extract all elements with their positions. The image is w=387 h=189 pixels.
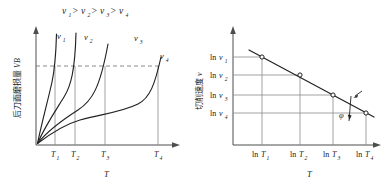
right-y-axis-arrow <box>230 26 236 34</box>
right-ytick-lnv1-sub: 1 <box>225 58 228 64</box>
left-xtick-t1-sub: 1 <box>57 155 60 161</box>
right-x-axis-label: T <box>307 169 313 179</box>
inequality-op1: > <box>72 6 78 16</box>
right-xtick-lnt1-prefix: ln <box>252 150 258 159</box>
left-xtick-t2-base: T <box>71 150 76 159</box>
right-ytick-lnv4-prefix: ln <box>210 109 216 118</box>
left-xtick-t1: T 1 <box>51 150 60 161</box>
inequality-v3: v <box>100 6 105 16</box>
left-xtick-t1-base: T <box>51 150 56 159</box>
left-xtick-t3: T 3 <box>101 150 110 161</box>
phi-lower-arrowhead <box>348 115 352 120</box>
right-y-axis-label-cjk: 切削速度 <box>194 78 204 110</box>
curve-label-v2-base: v <box>84 32 88 42</box>
left-xtick-t3-base: T <box>101 150 106 159</box>
left-xtick-t2: T 2 <box>71 150 80 161</box>
figure-svg: v 1 > v 2 > v 3 > v 4 <box>0 0 387 189</box>
right-xtick-lnt4-prefix: ln <box>356 150 362 159</box>
right-ytick-lnv4: ln v 4 <box>210 109 228 120</box>
curve-label-v3-base: v <box>134 33 138 43</box>
left-curve-label-v4: v 4 <box>160 51 169 63</box>
inequality-op2: > <box>91 6 97 16</box>
left-x-axis-arrow <box>172 142 180 148</box>
inequality-v1: v <box>62 6 67 16</box>
right-ytick-lnv3-sub: 3 <box>224 96 228 102</box>
right-ytick-lnv1: ln v 1 <box>210 53 228 64</box>
right-y-axis-label-sym: v <box>195 72 204 76</box>
taylor-marker-2 <box>298 73 302 77</box>
right-ytick-lnv2-prefix: ln <box>210 71 216 80</box>
left-chart-panel: v 1 > v 2 > v 3 > v 4 <box>12 6 180 179</box>
right-ytick-lnv1-prefix: ln <box>210 53 216 62</box>
right-xtick-lnt1-base: T <box>261 150 266 159</box>
inequality-op3: > <box>110 6 116 16</box>
figure-root: v 1 > v 2 > v 3 > v 4 <box>0 0 387 189</box>
left-y-axis-label-group: 后刀面磨损量 VB <box>12 58 22 118</box>
left-curve-label-v2: v 2 <box>84 32 93 44</box>
wear-curve-v2 <box>38 33 77 144</box>
inequality-v4-sub: 4 <box>126 12 129 18</box>
left-curve-label-v1: v 1 <box>57 31 66 43</box>
right-xtick-lnt4-sub: 4 <box>371 155 374 161</box>
taylor-marker-1 <box>260 55 264 59</box>
wear-curve-v4 <box>38 57 162 144</box>
left-xtick-t4: T 4 <box>154 150 163 161</box>
wear-curve-v3 <box>38 44 109 144</box>
taylor-marker-3 <box>331 93 335 97</box>
taylor-marker-4 <box>364 111 368 115</box>
right-xtick-lnt1: ln T 1 <box>252 150 270 161</box>
right-chart-panel: φ ln v 1 ln v 2 ln v 3 ln v 4 <box>194 26 381 179</box>
right-ytick-lnv3-base: v <box>219 91 223 100</box>
left-x-axis-label: T <box>104 169 110 179</box>
right-xtick-lnt4-base: T <box>365 150 370 159</box>
left-chart-inequality: v 1 > v 2 > v 3 > v 4 <box>62 6 129 18</box>
right-x-axis-arrow <box>373 142 381 148</box>
left-xtick-t3-sub: 3 <box>106 155 110 161</box>
right-xtick-lnt3: ln T 3 <box>323 150 341 161</box>
phi-upper-leader <box>355 91 362 96</box>
left-xtick-t4-sub: 4 <box>160 155 163 161</box>
right-ytick-lnv3-prefix: ln <box>210 91 216 100</box>
taylor-tool-life-line <box>249 50 374 117</box>
left-xtick-t2-sub: 2 <box>77 155 80 161</box>
inequality-v3-sub: 3 <box>106 12 110 18</box>
curve-label-v2-sub: 2 <box>90 38 93 44</box>
left-y-axis-label-sym: VB <box>13 58 22 68</box>
right-xtick-lnt2-base: T <box>299 150 304 159</box>
inequality-v2: v <box>81 6 86 16</box>
right-ytick-lnv2-base: v <box>219 71 223 80</box>
right-ytick-lnv1-base: v <box>219 53 223 62</box>
left-xtick-t4-base: T <box>154 150 159 159</box>
right-xtick-lnt2: ln T 2 <box>290 150 308 161</box>
right-ytick-lnv4-sub: 4 <box>225 114 228 120</box>
right-y-axis-label-group: 切削速度 v <box>194 72 204 110</box>
right-xtick-lnt2-prefix: ln <box>290 150 296 159</box>
right-xtick-lnt3-base: T <box>332 150 337 159</box>
right-xtick-lnt1-sub: 1 <box>267 155 270 161</box>
curve-label-v1-sub: 1 <box>63 37 66 43</box>
right-xtick-lnt4: ln T 4 <box>356 150 374 161</box>
right-ytick-lnv2-sub: 2 <box>225 76 228 82</box>
left-y-axis-arrow <box>33 26 39 34</box>
curve-label-v4-sub: 4 <box>166 57 169 63</box>
right-ytick-lnv2: ln v 2 <box>210 71 228 82</box>
left-y-axis-label-cjk: 后刀面磨损量 <box>12 70 22 118</box>
right-ytick-lnv4-base: v <box>219 109 223 118</box>
curve-label-v1-base: v <box>57 31 61 41</box>
inequality-v4: v <box>119 6 124 16</box>
left-curve-label-v3: v 3 <box>134 33 143 45</box>
right-xtick-lnt3-sub: 3 <box>337 155 341 161</box>
right-xtick-lnt2-sub: 2 <box>305 155 308 161</box>
curve-label-v4-base: v <box>160 51 164 61</box>
phi-angle-label: φ <box>339 110 344 120</box>
phi-angle-annotation: φ <box>339 91 362 121</box>
curve-label-v3-sub: 3 <box>139 39 143 45</box>
right-xtick-lnt3-prefix: ln <box>323 150 329 159</box>
right-ytick-lnv3: ln v 3 <box>210 91 228 102</box>
